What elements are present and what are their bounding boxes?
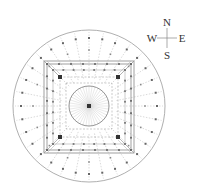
- square-column-marker: [124, 111, 126, 113]
- compass-rose: N S E W: [147, 16, 186, 61]
- center-point: [87, 104, 91, 108]
- mid-column-marker: [144, 105, 146, 107]
- outer-column-marker: [21, 92, 23, 94]
- outer-column-marker: [88, 37, 90, 39]
- dome-rib: [89, 94, 105, 106]
- outer-column-marker: [31, 67, 33, 69]
- outer-column-marker: [50, 162, 52, 164]
- square-column-marker: [82, 63, 84, 65]
- corner-diagonal: [118, 61, 131, 74]
- square-column-marker: [124, 69, 126, 71]
- square-column-marker: [93, 143, 95, 145]
- dome-rib: [73, 106, 89, 118]
- corner-diagonal: [118, 140, 131, 153]
- compass-south-label: S: [164, 49, 170, 61]
- square-column-marker: [93, 69, 95, 71]
- square-column-marker: [52, 101, 54, 103]
- dome-rib: [73, 94, 89, 106]
- square-column-marker: [94, 149, 96, 151]
- square-column-marker: [46, 137, 48, 139]
- outer-column-marker: [75, 172, 77, 174]
- square-column-marker: [52, 133, 54, 135]
- square-column-marker: [130, 149, 132, 151]
- outer-column-marker: [75, 38, 77, 40]
- square-column-marker: [114, 69, 116, 71]
- dome-rib: [77, 106, 89, 122]
- square-column-marker: [124, 101, 126, 103]
- outer-column-marker: [101, 172, 103, 174]
- mid-column-marker: [140, 84, 142, 86]
- mid-column-marker: [67, 157, 69, 159]
- outer-column-marker: [101, 38, 103, 40]
- square-column-marker: [58, 149, 60, 151]
- square-column-marker: [52, 143, 54, 145]
- compass-west-label: W: [147, 32, 158, 44]
- outer-column-marker: [155, 118, 157, 120]
- square-column-marker: [46, 149, 48, 151]
- square-column-marker: [130, 125, 132, 127]
- outer-column-marker: [62, 168, 64, 170]
- square-column-marker: [46, 125, 48, 127]
- outer-column-marker: [136, 153, 138, 155]
- outer-column-marker: [126, 48, 128, 50]
- dome-rib: [89, 90, 101, 106]
- outer-column-marker: [20, 105, 22, 107]
- square-column-marker: [73, 143, 75, 145]
- square-column-marker: [106, 149, 108, 151]
- square-column-marker: [124, 143, 126, 145]
- outer-column-marker: [151, 131, 153, 133]
- square-column-marker: [46, 63, 48, 65]
- square-column-marker: [118, 149, 120, 151]
- corner-pier: [58, 135, 62, 139]
- outer-column-marker: [40, 57, 42, 59]
- square-column-marker: [73, 69, 75, 71]
- corner-pier: [116, 135, 120, 139]
- outer-column-marker: [114, 42, 116, 44]
- square-column-marker: [52, 111, 54, 113]
- square-column-marker: [82, 149, 84, 151]
- plan-diagram: N S E W: [0, 0, 197, 194]
- compass-east-label: E: [179, 32, 186, 44]
- compass-north-label: N: [163, 16, 171, 28]
- square-column-marker: [70, 149, 72, 151]
- outer-column-marker: [25, 131, 27, 133]
- mid-column-marker: [110, 157, 112, 159]
- outer-column-marker: [21, 118, 23, 120]
- mid-column-marker: [67, 53, 69, 55]
- mid-column-marker: [140, 127, 142, 129]
- square-column-marker: [130, 88, 132, 90]
- outer-column-marker: [126, 162, 128, 164]
- square-column-marker: [130, 112, 132, 114]
- square-column-marker: [46, 100, 48, 102]
- outer-column-marker: [114, 168, 116, 170]
- square-column-marker: [124, 80, 126, 82]
- mid-column-marker: [49, 145, 51, 147]
- corner-diagonal: [47, 61, 60, 74]
- square-column-marker: [52, 80, 54, 82]
- dome-rib: [89, 106, 105, 118]
- outer-column-marker: [145, 143, 147, 145]
- dome-rib: [89, 106, 101, 122]
- mid-column-marker: [36, 84, 38, 86]
- outer-column-marker: [25, 79, 27, 81]
- square-column-marker: [130, 63, 132, 65]
- outer-column-marker: [31, 143, 33, 145]
- square-column-marker: [118, 63, 120, 65]
- square-column-marker: [70, 63, 72, 65]
- square-column-marker: [124, 122, 126, 124]
- outer-column-marker: [155, 92, 157, 94]
- square-column-marker: [130, 100, 132, 102]
- square-column-marker: [62, 69, 64, 71]
- square-column-marker: [52, 122, 54, 124]
- square-column-marker: [46, 75, 48, 77]
- square-column-marker: [130, 75, 132, 77]
- outer-column-marker: [151, 79, 153, 81]
- square-column-marker: [104, 69, 106, 71]
- square-column-marker: [58, 63, 60, 65]
- square-column-marker: [130, 137, 132, 139]
- outer-column-marker: [40, 153, 42, 155]
- outer-column-marker: [88, 173, 90, 175]
- square-column-marker: [124, 133, 126, 135]
- outer-column-marker: [62, 42, 64, 44]
- corner-pier: [116, 75, 120, 79]
